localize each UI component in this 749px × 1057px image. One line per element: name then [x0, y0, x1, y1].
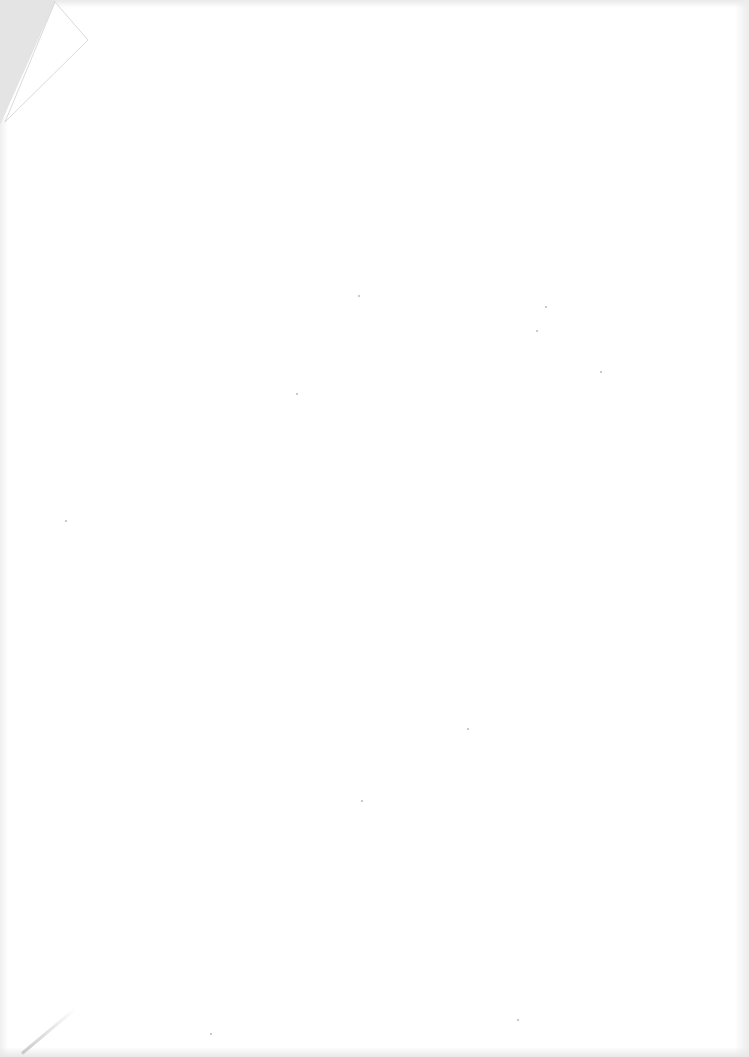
scan-speck [545, 306, 547, 308]
page-edge-shadow-bottom [0, 1047, 749, 1057]
page-edge-shadow-left [0, 0, 8, 1057]
scan-speck [358, 295, 360, 297]
scan-speck [361, 800, 363, 802]
scan-speck [517, 1019, 519, 1021]
scan-speck [296, 393, 298, 395]
blank-page [0, 0, 749, 1057]
scan-speck [210, 1033, 212, 1035]
page-edge-shadow-right [735, 0, 749, 1057]
scan-speck [536, 330, 538, 332]
scan-speck [65, 520, 67, 522]
page-edge-shadow-top [0, 0, 749, 8]
scan-speck [467, 728, 469, 730]
scan-speck [600, 371, 602, 373]
folded-corner-icon [0, 0, 90, 125]
